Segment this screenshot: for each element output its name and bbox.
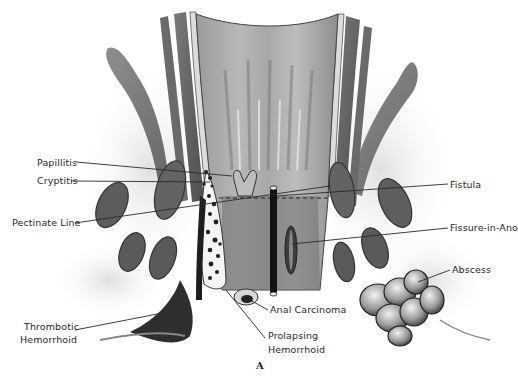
label-prolapsing-hemorrhoid-line1: Prolapsing bbox=[268, 330, 318, 342]
label-pectinate-line: Pectinate Line bbox=[12, 217, 80, 229]
label-cryptitis: Cryptitis bbox=[37, 175, 78, 187]
label-abscess: Abscess bbox=[452, 264, 491, 276]
label-fissure-in-ano: Fissure-in-Ano bbox=[450, 222, 518, 234]
fistula-tract bbox=[270, 188, 277, 294]
label-thrombotic-hemorrhoid-line1: Thrombotic bbox=[24, 321, 79, 333]
label-fistula: Fistula bbox=[450, 179, 481, 191]
label-anal-carcinoma: Anal Carcinoma bbox=[270, 304, 346, 316]
figure-caption: A bbox=[256, 360, 264, 371]
label-thrombotic-hemorrhoid-line2: Hemorrhoid bbox=[20, 334, 77, 346]
label-prolapsing-hemorrhoid-line2: Hemorrhoid bbox=[268, 344, 325, 356]
label-papillitis: Papillitis bbox=[37, 157, 77, 169]
